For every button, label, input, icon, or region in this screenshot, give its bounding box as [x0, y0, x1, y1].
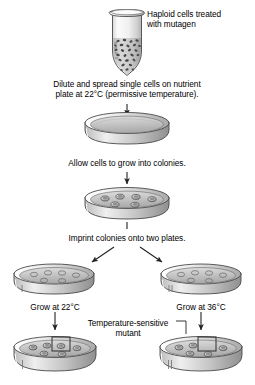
replica-plate-36c: [161, 264, 241, 294]
arrow-branch-left: [92, 247, 114, 262]
replica-plate-22c: [14, 264, 94, 294]
nutrient-plate-spread: [85, 113, 169, 145]
nutrient-plate-colonies: [85, 188, 169, 220]
caption-grow-at-36c: Grow at 36°C: [176, 302, 225, 312]
microcentrifuge-tube: [109, 10, 145, 76]
caption-imprint-colonies: Imprint colonies onto two plates.: [69, 233, 186, 243]
temperature-sensitive-mutant-diagram: Haploid cells treated with mutagen Dilut…: [0, 0, 255, 385]
grown-plate-22c: [14, 337, 96, 372]
caption-dilute-and-spread: Dilute and spread single cells on nutrie…: [53, 79, 200, 100]
arrow-branch-right: [140, 247, 162, 262]
grown-plate-36c: [160, 337, 242, 372]
caption-allow-cells-grow: Allow cells to grow into colonies.: [68, 158, 185, 168]
caption-haploid-cells: Haploid cells treated with mutagen: [147, 9, 221, 30]
leader-ts-mutant: [176, 321, 186, 334]
caption-temperature-sensitive-mutant: Temperature-sensitive mutant: [88, 318, 169, 339]
caption-grow-at-22c: Grow at 22°C: [30, 302, 79, 312]
ts-mutant-colony-present: [57, 344, 65, 349]
